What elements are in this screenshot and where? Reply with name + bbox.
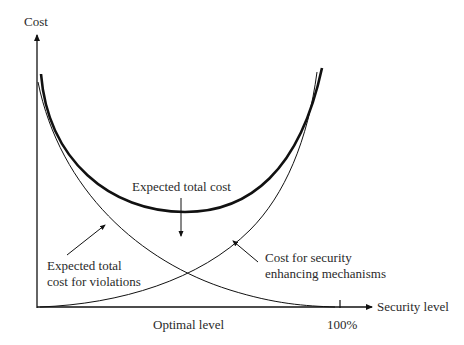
x-tick-100-label: 100% xyxy=(327,317,357,333)
x-axis-label: Security level xyxy=(377,299,449,315)
total-cost-label: Expected total cost xyxy=(132,179,231,195)
security-label-line1: Cost for security xyxy=(265,250,352,266)
optimal-level-label: Optimal level xyxy=(153,317,224,333)
diagram-canvas xyxy=(0,0,464,345)
violations-label-line1: Expected total xyxy=(47,258,122,274)
security-label-line2: enhancing mechanisms xyxy=(265,266,386,282)
violations-arrow xyxy=(67,225,105,255)
violations-label-line2: cost for violations xyxy=(47,274,141,290)
security-arrow xyxy=(233,241,258,262)
y-axis-label: Cost xyxy=(24,14,48,30)
